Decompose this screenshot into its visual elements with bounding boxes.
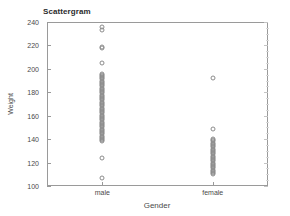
x-axis-label: Gender (144, 201, 171, 210)
y-minor-tick (266, 180, 269, 181)
y-tick-mark-right (264, 186, 268, 187)
plot-area (47, 22, 268, 186)
y-minor-tick (266, 34, 269, 35)
y-tick-mark (47, 139, 51, 140)
y-minor-tick (266, 75, 269, 76)
y-tick-label: 220 (27, 42, 39, 49)
y-tick-mark-right (264, 139, 268, 140)
y-minor-tick (266, 145, 269, 146)
y-axis-label: Weight (7, 93, 14, 115)
y-minor-tick (266, 98, 269, 99)
y-minor-tick (266, 174, 269, 175)
y-tick-label: 200 (27, 65, 39, 72)
y-minor-tick (266, 86, 269, 87)
scattergram-figure: Scattergram Weight Gender 10012014016018… (0, 0, 290, 216)
y-tick-label: 160 (27, 112, 39, 119)
y-minor-tick (266, 28, 269, 29)
y-minor-tick (266, 51, 269, 52)
y-tick-mark (47, 186, 51, 187)
y-minor-tick (266, 151, 269, 152)
data-point (100, 139, 105, 144)
data-point (210, 126, 215, 131)
y-minor-tick (266, 157, 269, 158)
y-tick-mark-right (264, 116, 268, 117)
x-tick-mark (102, 182, 103, 186)
y-minor-tick (266, 168, 269, 169)
y-tick-mark (47, 163, 51, 164)
data-point (210, 76, 215, 81)
y-minor-tick (266, 127, 269, 128)
y-minor-tick (266, 57, 269, 58)
y-tick-mark-right (264, 22, 268, 23)
data-point (100, 155, 105, 160)
y-tick-label: 100 (27, 183, 39, 190)
y-tick-mark (47, 116, 51, 117)
y-tick-label: 240 (27, 19, 39, 26)
y-tick-mark (47, 69, 51, 70)
y-minor-tick (266, 81, 269, 82)
y-tick-label: 180 (27, 89, 39, 96)
y-minor-tick (266, 40, 269, 41)
y-tick-mark (47, 92, 51, 93)
y-tick-mark (47, 45, 51, 46)
y-tick-mark-right (264, 69, 268, 70)
y-minor-tick (266, 110, 269, 111)
y-tick-label: 120 (27, 159, 39, 166)
data-point (100, 61, 105, 66)
x-tick-label-female: female (202, 189, 223, 196)
y-tick-label: 140 (27, 136, 39, 143)
y-minor-tick (266, 133, 269, 134)
data-point (100, 175, 105, 180)
page-title: Scattergram (43, 7, 91, 16)
x-tick-mark (213, 182, 214, 186)
y-tick-mark-right (264, 45, 268, 46)
data-point (210, 172, 215, 177)
y-minor-tick (266, 122, 269, 123)
x-tick-label-male: male (95, 189, 110, 196)
y-minor-tick (266, 104, 269, 105)
y-tick-mark (47, 22, 51, 23)
y-tick-mark-right (264, 163, 268, 164)
y-minor-tick (266, 63, 269, 64)
data-point (100, 45, 105, 50)
y-tick-mark-right (264, 92, 268, 93)
data-point (100, 28, 105, 33)
